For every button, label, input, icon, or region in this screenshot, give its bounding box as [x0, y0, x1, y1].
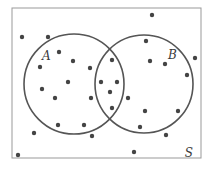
- universe-frame: [12, 8, 201, 158]
- set-a-label: A: [41, 49, 51, 63]
- set-b-label: B: [167, 48, 177, 62]
- sample-point: [89, 96, 93, 100]
- sample-point: [56, 123, 60, 127]
- set-b-circle: [95, 35, 193, 133]
- sample-point: [32, 131, 36, 135]
- sample-point: [126, 96, 130, 100]
- sample-point: [16, 153, 20, 157]
- sample-point: [132, 150, 136, 154]
- sample-point: [138, 125, 142, 129]
- sample-point: [99, 80, 103, 84]
- sample-point: [150, 13, 154, 17]
- sample-point: [108, 90, 112, 94]
- sample-point: [82, 123, 86, 127]
- sample-point: [176, 109, 180, 113]
- sample-point: [57, 50, 61, 54]
- sample-point: [88, 66, 92, 70]
- sample-point: [144, 39, 148, 43]
- sample-point: [193, 56, 197, 60]
- sample-point: [66, 80, 70, 84]
- sample-point: [143, 109, 147, 113]
- sample-point: [185, 73, 189, 77]
- sample-point: [115, 80, 119, 84]
- sample-point: [164, 133, 168, 137]
- sample-point: [71, 59, 75, 63]
- sample-point: [163, 62, 167, 66]
- sample-point: [53, 96, 57, 100]
- sample-point: [110, 106, 114, 110]
- venn-diagram: ABS: [0, 0, 214, 169]
- sample-point: [46, 35, 50, 39]
- sample-point: [38, 65, 42, 69]
- universe-label: S: [185, 146, 193, 160]
- sample-point: [90, 134, 94, 138]
- sample-point: [110, 58, 114, 62]
- sample-point: [40, 87, 44, 91]
- sample-point: [20, 35, 24, 39]
- sample-point: [148, 59, 152, 63]
